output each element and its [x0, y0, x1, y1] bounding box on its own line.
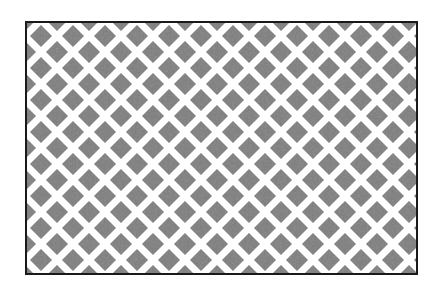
diamond-tile	[190, 57, 212, 79]
diamond-tile	[366, 137, 388, 159]
diamond-tile	[126, 153, 148, 175]
diamond-tile	[190, 217, 212, 239]
diamond-tile	[46, 169, 68, 191]
diamond-tile	[222, 57, 244, 79]
diamond-tile	[254, 121, 276, 143]
diamond-tile	[78, 233, 100, 255]
diamond-tile	[334, 41, 356, 63]
diamond-tile	[206, 201, 228, 223]
diamond-tile	[302, 41, 324, 63]
diamond-tile	[350, 89, 372, 111]
diamond-tile	[110, 41, 132, 63]
diamond-tile	[206, 137, 228, 159]
diamond-tile	[382, 89, 404, 111]
diamond-tile	[158, 121, 180, 143]
diamond-tile	[206, 105, 228, 127]
diamond-tile	[350, 185, 372, 207]
figure-canvas: Diamond lattice pattern	[0, 0, 437, 285]
diamond-tile	[110, 169, 132, 191]
diamond-pattern-graphic	[27, 23, 416, 273]
diamond-tile	[94, 89, 116, 111]
diamond-tile	[366, 233, 388, 255]
diamond-tile	[302, 265, 324, 273]
diamond-tile	[190, 249, 212, 271]
diamond-tile	[142, 201, 164, 223]
diamond-tile	[62, 185, 84, 207]
diamond-tile	[414, 89, 416, 111]
diamond-tile	[302, 201, 324, 223]
diamond-tile	[94, 153, 116, 175]
diamond-tile	[286, 217, 308, 239]
diamond-tile	[126, 249, 148, 271]
diamond-tile	[174, 73, 196, 95]
diamond-tile	[27, 23, 36, 31]
diamond-tile	[78, 169, 100, 191]
diamond-tile	[382, 185, 404, 207]
diamond-tile	[414, 25, 416, 47]
diamond-tile	[366, 169, 388, 191]
diamond-tile	[334, 201, 356, 223]
diamond-tile	[286, 89, 308, 111]
diamond-tile	[206, 23, 228, 31]
diamond-tile	[27, 105, 36, 127]
diamond-tile	[30, 249, 52, 271]
diamond-tile	[174, 137, 196, 159]
diamond-tile	[334, 73, 356, 95]
diamond-tile	[62, 217, 84, 239]
diamond-tile	[78, 73, 100, 95]
diamond-tile	[238, 41, 260, 63]
diamond-tile	[366, 73, 388, 95]
diamond-tile	[366, 201, 388, 223]
diamond-tile	[254, 25, 276, 47]
diamond-tile	[78, 105, 100, 127]
diamond-tile	[46, 201, 68, 223]
diamond-tile	[318, 57, 340, 79]
diamond-tile	[270, 169, 292, 191]
diamond-tile	[366, 23, 388, 31]
diamond-tile	[254, 217, 276, 239]
diamond-tile	[158, 25, 180, 47]
diamond-tile	[158, 217, 180, 239]
diamond-tile	[206, 233, 228, 255]
diamond-tile	[174, 233, 196, 255]
diamond-tile	[302, 233, 324, 255]
diamond-tile	[238, 73, 260, 95]
diamond-tile	[30, 185, 52, 207]
diamond-tile	[254, 57, 276, 79]
diamond-tile	[190, 121, 212, 143]
diamond-tile	[110, 233, 132, 255]
diamond-tile	[414, 249, 416, 271]
diamond-tile	[414, 57, 416, 79]
diamond-tile	[46, 137, 68, 159]
diamond-tile	[366, 41, 388, 63]
diamond-tile	[142, 105, 164, 127]
diamond-tile	[158, 249, 180, 271]
diamond-tile	[94, 25, 116, 47]
diamond-tile	[414, 185, 416, 207]
diamond-tile	[142, 169, 164, 191]
diamond-tile	[302, 73, 324, 95]
diamond-tile	[398, 233, 416, 255]
diamond-tile	[126, 25, 148, 47]
diamond-tile	[94, 217, 116, 239]
diamond-tile	[238, 233, 260, 255]
diamond-tile	[174, 169, 196, 191]
diamond-tile	[350, 25, 372, 47]
diamond-tile	[94, 185, 116, 207]
diamond-tile	[270, 137, 292, 159]
diamond-tile	[27, 41, 36, 63]
diamond-tile	[286, 121, 308, 143]
diamond-tile	[27, 169, 36, 191]
diamond-tile	[30, 217, 52, 239]
diamond-tile	[206, 41, 228, 63]
diamond-tile	[302, 137, 324, 159]
diamond-tile	[62, 89, 84, 111]
diamond-tile	[222, 153, 244, 175]
diamond-tile	[238, 201, 260, 223]
diamond-tile	[318, 121, 340, 143]
diamond-tile	[158, 153, 180, 175]
diamond-tile	[94, 249, 116, 271]
diamond-tile	[190, 25, 212, 47]
diamond-tile	[142, 233, 164, 255]
diamond-tile	[318, 217, 340, 239]
